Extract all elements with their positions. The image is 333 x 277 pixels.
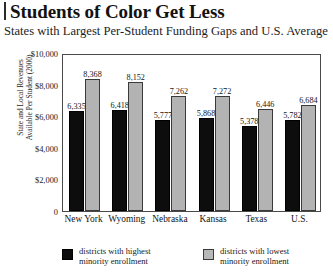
bar-value-label: 7,262 (170, 87, 188, 96)
bar-value-label: 5,378 (240, 117, 258, 126)
bar-value-label: 5,782 (283, 111, 301, 120)
bar-value-label: 6,684 (299, 96, 317, 105)
legend-label-line-1: districts with lowest (220, 246, 289, 256)
x-axis-category-label: Texas (245, 214, 267, 224)
bar-value-label: 8,152 (127, 73, 145, 82)
y-axis-tick-label: $4,000 (18, 144, 58, 153)
bar: 5,378 (242, 126, 257, 211)
x-axis-category-label: New York (65, 214, 103, 224)
y-axis-tick-label: $8,000 (18, 81, 58, 90)
plot-area: 6,3358,3686,4188,1525,7777,2625,8687,272… (62, 54, 321, 212)
legend-item: districts with highestminority enrollmen… (62, 246, 151, 266)
bar: 6,335 (69, 111, 84, 211)
bar-groups: 6,3358,3686,4188,1525,7777,2625,8687,272… (63, 55, 320, 211)
bar-value-label: 6,418 (111, 101, 129, 110)
legend-swatch-icon (203, 249, 214, 260)
bar: 6,446 (258, 109, 273, 211)
legend-item: districts with lowestminority enrollment (203, 246, 289, 266)
bar-value-label: 8,368 (83, 70, 101, 79)
y-axis-ticks: $10,000$8,000$6,000$4,000$2,0000 (16, 0, 58, 277)
legend-label-line-1: districts with highest (79, 246, 151, 256)
x-axis-category-label: U.S. (291, 214, 308, 224)
bar-value-label: 6,446 (256, 100, 274, 109)
title-rule (4, 2, 6, 20)
bar-value-label: 5,868 (197, 109, 215, 118)
y-axis-tick-label: 0 (18, 208, 58, 217)
bar: 8,152 (128, 82, 143, 211)
legend-swatch-icon (62, 249, 73, 260)
bar: 7,272 (215, 96, 230, 211)
bar-value-label: 7,272 (213, 87, 231, 96)
chart-figure: Students of Color Get Less States with L… (0, 0, 333, 277)
bar: 6,684 (301, 105, 316, 211)
x-axis-category-label: Kansas (200, 214, 227, 224)
bar-value-label: 5,777 (154, 111, 172, 120)
chart-legend: districts with highestminority enrollmen… (62, 246, 324, 272)
bar: 5,777 (155, 120, 170, 211)
legend-label: districts with highestminority enrollmen… (79, 246, 151, 266)
bar: 7,262 (171, 96, 186, 211)
bar: 5,868 (199, 118, 214, 211)
x-axis-category-label: Wyoming (108, 214, 145, 224)
x-axis-category-label: Nebraska (152, 214, 187, 224)
bar: 6,418 (112, 110, 127, 211)
legend-label-line-2: minority enrollment (220, 256, 289, 266)
x-axis-labels: New YorkWyomingNebraskaKansasTexasU.S. (62, 214, 321, 228)
legend-label-line-2: minority enrollment (79, 256, 151, 266)
y-axis-tick-label: $2,000 (18, 176, 58, 185)
bar: 5,782 (285, 120, 300, 211)
legend-label: districts with lowestminority enrollment (220, 246, 289, 266)
bar: 8,368 (85, 79, 100, 211)
y-axis-tick-label: $6,000 (18, 113, 58, 122)
y-axis-tick-label: $10,000 (18, 50, 58, 59)
bar-value-label: 6,335 (67, 102, 85, 111)
